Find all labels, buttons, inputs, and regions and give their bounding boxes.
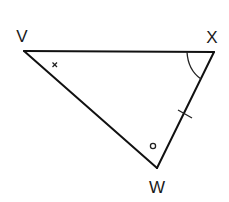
edge-vx (24, 51, 214, 52)
angle-marker-x-arc (187, 52, 201, 79)
triangle-diagram: V X W (0, 0, 229, 202)
vertex-label-x: X (206, 28, 217, 47)
edge-wv (24, 51, 157, 168)
edge-xw (157, 52, 214, 168)
angle-marker-v-cross (53, 63, 58, 68)
vertex-label-v: V (16, 27, 28, 46)
angle-marker-w-circle (150, 143, 155, 148)
vertex-label-w: W (149, 178, 165, 197)
